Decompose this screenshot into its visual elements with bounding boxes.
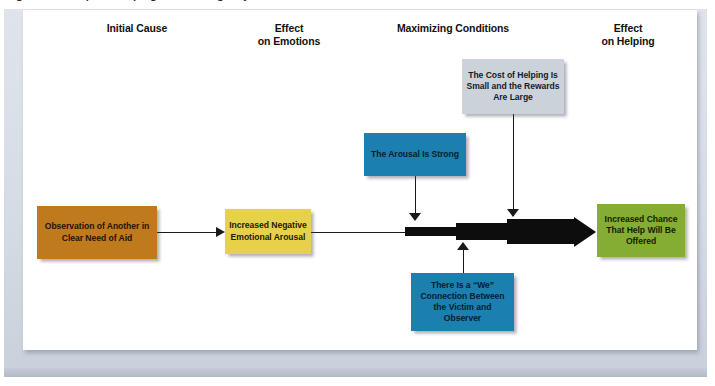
arrowhead-we-to-bar <box>457 242 469 250</box>
connector-cost-to-bar <box>513 114 515 214</box>
figure-caption-strip: Figure 12.7 Steps to Helping in an Emerg… <box>0 0 715 9</box>
growth-bar-arrowhead <box>574 217 596 247</box>
column-header-effect-on-helping: Effect on Helping <box>563 22 693 47</box>
node-outcome-label: Increased Chance That Help Will Be Offer… <box>601 214 681 248</box>
arrowhead-cost-to-bar <box>507 209 519 217</box>
frame-bottom-shadow <box>4 368 707 377</box>
growth-bar-segment-3 <box>507 219 575 244</box>
figure-caption: Figure 12.7 Steps to Helping in an Emerg… <box>6 0 249 1</box>
figure-panel: Initial Cause Effect on Emotions Maximiz… <box>23 10 697 350</box>
node-increased-negative-emotional-arousal[interactable]: Increased Negative Emotional Arousal <box>225 209 311 254</box>
growth-bar-segment-2 <box>456 223 508 240</box>
node-cost-label: The Cost of Helping Is Small and the Rew… <box>466 70 560 104</box>
node-arousal-label: The Arousal Is Strong <box>371 149 459 160</box>
column-header-effect-on-emotions: Effect on Emotions <box>209 22 369 47</box>
figure-root: Figure 12.7 Steps to Helping in an Emerg… <box>0 0 715 386</box>
node-initial-cause[interactable]: Observation of Another in Clear Need of … <box>37 206 157 259</box>
column-header-initial-cause: Initial Cause <box>57 22 217 35</box>
node-arousal-is-strong[interactable]: The Arousal Is Strong <box>364 133 466 176</box>
node-we-connection-label: There Is a “We” Connection Between the V… <box>415 280 510 325</box>
arrowhead-arousal-to-bar <box>409 213 421 221</box>
growth-bar-segment-1 <box>405 227 457 236</box>
node-increased-chance-of-help[interactable]: Increased Chance That Help Will Be Offer… <box>597 204 685 257</box>
connector-emotion-to-bar <box>311 232 406 233</box>
arrowhead-cause-to-emotion <box>216 227 225 237</box>
node-we-connection[interactable]: There Is a “We” Connection Between the V… <box>411 273 514 331</box>
node-cost-of-helping[interactable]: The Cost of Helping Is Small and the Rew… <box>462 59 564 114</box>
connector-cause-to-emotion <box>157 232 217 233</box>
connector-arousal-to-bar <box>415 176 417 216</box>
node-initial-cause-label: Observation of Another in Clear Need of … <box>41 221 153 243</box>
column-header-maximizing-conditions: Maximizing Conditions <box>353 22 553 35</box>
node-emotion-label: Increased Negative Emotional Arousal <box>229 220 307 242</box>
